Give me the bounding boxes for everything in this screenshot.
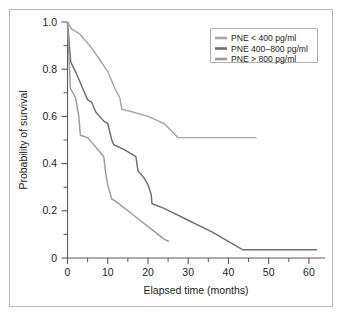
survival-chart: 00.20.40.60.81.0 0102030405060 Elapsed t… [0,0,343,317]
figure-container: 00.20.40.60.81.0 0102030405060 Elapsed t… [0,0,343,317]
y-tick-label: 0.8 [42,63,57,75]
y-axis-ticks [62,22,68,258]
x-tick-label: 0 [65,266,71,278]
x-axis-tick-labels: 0102030405060 [65,266,315,278]
legend-label-0: PNE < 400 pg/ml [231,33,296,43]
series-line-2 [68,22,169,241]
y-tick-label: 0 [51,252,57,264]
y-tick-label: 1.0 [42,16,57,28]
x-tick-label: 60 [303,266,315,278]
x-tick-label: 10 [102,266,114,278]
y-tick-label: 0.6 [42,110,57,122]
x-axis-title: Elapsed time (months) [143,284,248,296]
x-tick-label: 40 [223,266,235,278]
x-tick-label: 30 [182,266,194,278]
y-tick-label: 0.4 [42,157,57,169]
legend-label-1: PNE 400–800 pg/ml [231,44,308,54]
y-tick-label: 0.2 [42,204,57,216]
x-axis-ticks [68,258,309,264]
x-tick-label: 50 [263,266,275,278]
y-axis-tick-labels: 00.20.40.60.81.0 [42,16,57,264]
y-axis-title: Probability of survival [17,90,29,189]
legend-label-2: PNE > 800 pg/ml [231,54,296,64]
x-tick-label: 20 [142,266,154,278]
legend: PNE < 400 pg/mlPNE 400–800 pg/mlPNE > 80… [211,29,318,65]
